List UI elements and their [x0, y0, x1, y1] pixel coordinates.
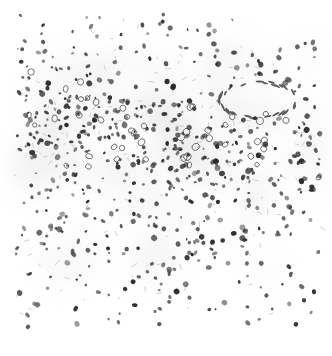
stroma-patch — [37, 104, 69, 136]
stroma-fiber — [48, 106, 49, 108]
stroma-patch — [137, 46, 177, 86]
stroma-fiber — [62, 133, 64, 134]
stroma-fiber — [212, 204, 215, 205]
cell-nucleus — [309, 218, 313, 222]
stroma-patch — [197, 35, 240, 78]
cell-nucleus — [226, 160, 229, 163]
stroma-fiber — [157, 293, 162, 294]
stroma-fiber — [277, 214, 281, 215]
cell-nucleus — [153, 310, 156, 313]
cell-nucleus — [29, 184, 33, 188]
cell-nucleus — [69, 141, 74, 144]
stroma-patch — [186, 135, 212, 161]
stroma-patch — [145, 186, 172, 213]
cell-nucleus — [152, 102, 156, 107]
cell-nucleus — [197, 259, 200, 262]
stroma-fiber — [55, 102, 56, 106]
cell-nucleus — [215, 308, 217, 311]
stroma-patch — [6, 151, 49, 194]
histology-micrograph — [0, 0, 332, 356]
stroma-patch — [202, 76, 246, 120]
cell-nucleus — [79, 274, 82, 276]
stroma-fiber — [202, 105, 203, 108]
cell-nucleus — [97, 106, 100, 108]
cell-nucleus — [165, 79, 170, 84]
cell-nucleus — [275, 233, 281, 236]
